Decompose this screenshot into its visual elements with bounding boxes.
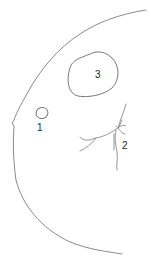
label-region-3: 3 bbox=[95, 70, 101, 80]
region-3-outline bbox=[68, 52, 118, 97]
outer-contour bbox=[12, 10, 146, 254]
label-region-1: 1 bbox=[37, 123, 43, 133]
region-1-outline bbox=[34, 106, 49, 120]
region-2-branches bbox=[80, 104, 126, 170]
diagram-canvas bbox=[0, 0, 151, 263]
label-region-2: 2 bbox=[122, 141, 128, 151]
